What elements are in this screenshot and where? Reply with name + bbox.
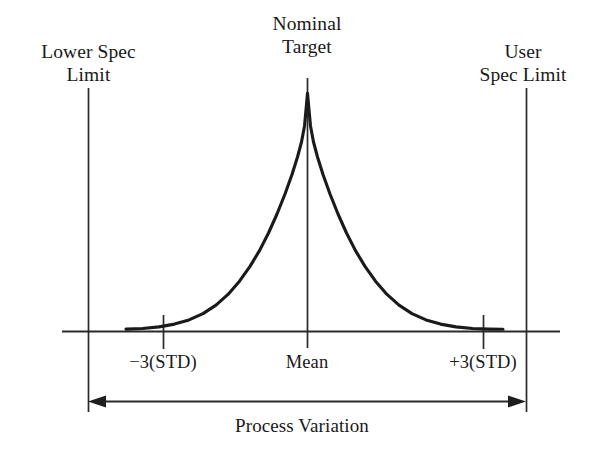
process-variation-span-arrow: [88, 396, 526, 408]
process-variation-caption: Process Variation: [152, 415, 452, 437]
nominal-target-label: Nominal Target: [227, 12, 387, 58]
minus-3-std-label: −3(STD): [93, 352, 233, 374]
process-variation-diagram: Lower Spec Limit Nominal Target User Spe…: [0, 0, 605, 453]
process-variation-arrowhead-right: [508, 396, 526, 408]
plus-3-std-label: +3(STD): [413, 352, 553, 374]
process-variation-arrowhead-left: [88, 396, 106, 408]
lower-spec-limit-label: Lower Spec Limit: [6, 40, 171, 86]
mean-label: Mean: [250, 352, 364, 374]
user-spec-limit-label: User Spec Limit: [443, 40, 603, 86]
bell-curve: [126, 93, 503, 329]
